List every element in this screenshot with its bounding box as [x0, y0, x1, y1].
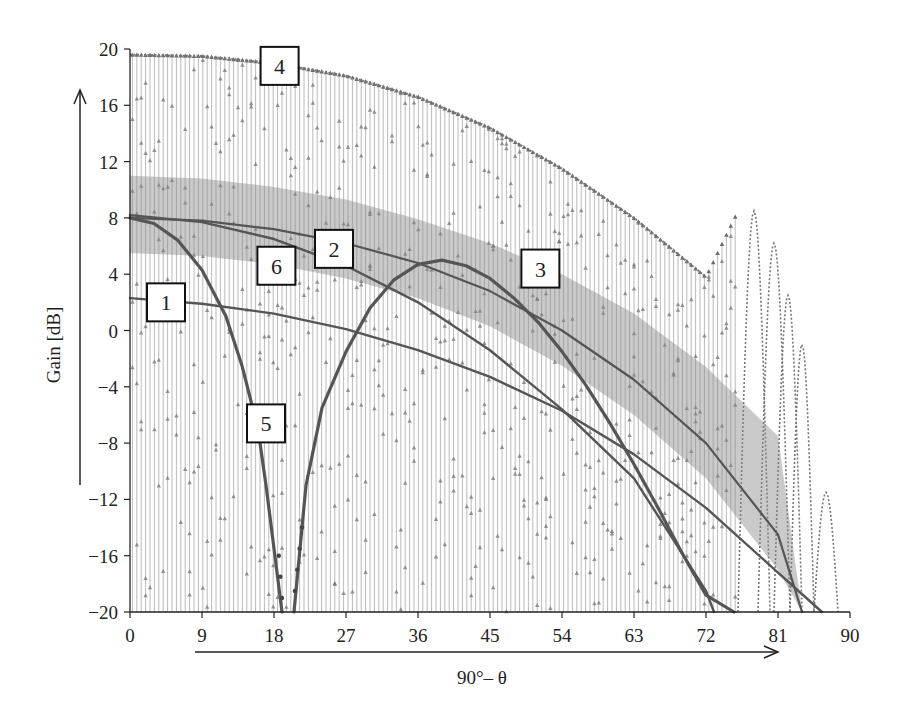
triangle-marker — [262, 126, 266, 130]
triangle-marker — [676, 308, 680, 312]
dense-band-fill — [130, 176, 802, 612]
triangle-marker — [636, 308, 640, 312]
triangle-marker — [209, 495, 213, 499]
triangle-marker — [619, 477, 623, 481]
y-tick-label: −20 — [88, 602, 118, 623]
triangle-marker — [451, 211, 455, 215]
triangle-marker — [500, 220, 504, 224]
triangle-marker — [465, 124, 469, 128]
triangle-marker — [478, 324, 482, 328]
triangle-marker — [575, 571, 579, 575]
triangle-marker — [478, 545, 482, 549]
triangle-marker — [416, 124, 420, 128]
triangle-marker — [504, 142, 508, 146]
triangle-marker — [575, 394, 579, 398]
triangle-marker — [729, 224, 734, 228]
triangle-marker — [143, 151, 147, 155]
triangle-marker — [372, 512, 376, 516]
triangle-marker — [253, 76, 257, 80]
triangle-marker — [174, 432, 178, 436]
triangle-marker — [412, 446, 416, 450]
triangle-marker — [636, 588, 640, 592]
triangle-marker — [381, 393, 385, 397]
triangle-marker — [645, 599, 649, 603]
triangle-marker — [478, 205, 482, 209]
triangle-marker — [355, 473, 359, 477]
triangle-marker — [425, 141, 429, 145]
y-tick-label: 4 — [109, 264, 119, 285]
triangle-marker — [469, 593, 473, 597]
triangle-marker — [495, 534, 499, 538]
triangle-marker — [504, 243, 508, 247]
callout-label: 1 — [161, 290, 172, 315]
triangle-marker — [161, 98, 165, 102]
triangle-marker — [341, 591, 345, 595]
triangle-marker — [355, 285, 359, 289]
triangle-marker — [135, 381, 139, 385]
triangle-marker — [381, 343, 385, 347]
triangle-marker — [359, 125, 363, 129]
triangle-marker — [583, 487, 587, 491]
dot-marker — [280, 596, 284, 600]
triangle-marker — [328, 466, 332, 470]
triangle-marker — [715, 355, 719, 359]
triangle-marker — [592, 601, 596, 605]
triangle-marker — [473, 564, 477, 568]
triangle-marker — [614, 501, 618, 505]
triangle-marker — [517, 555, 521, 559]
triangle-marker — [544, 524, 548, 528]
triangle-marker — [561, 384, 565, 388]
triangle-marker — [491, 428, 495, 432]
triangle-marker — [412, 101, 416, 105]
triangle-marker — [192, 470, 196, 474]
triangle-marker — [693, 549, 697, 553]
triangle-marker — [566, 212, 570, 216]
triangle-marker — [289, 156, 293, 160]
triangle-marker — [614, 421, 618, 425]
triangle-marker — [390, 139, 394, 143]
triangle-marker — [592, 494, 596, 498]
triangle-marker — [306, 156, 310, 160]
triangle-marker — [592, 557, 596, 561]
triangle-marker — [460, 474, 464, 478]
triangle-marker — [130, 117, 134, 121]
triangle-marker — [231, 133, 235, 137]
triangle-marker — [597, 600, 601, 604]
triangle-marker — [157, 139, 161, 143]
triangle-marker — [544, 535, 548, 539]
y-axis-title: Gain [dB] — [43, 307, 64, 384]
triangle-marker — [513, 154, 517, 158]
triangle-marker — [495, 175, 499, 179]
triangle-marker — [623, 258, 627, 262]
triangle-marker — [218, 516, 222, 520]
triangle-marker — [183, 127, 187, 131]
triangle-marker — [539, 409, 543, 413]
triangle-marker — [280, 337, 284, 341]
triangle-marker — [187, 480, 191, 484]
triangle-marker — [689, 507, 693, 511]
triangle-marker — [451, 474, 455, 478]
triangle-marker — [201, 586, 205, 590]
triangle-marker — [311, 315, 315, 319]
triangle-marker — [627, 433, 631, 437]
triangle-marker — [601, 219, 605, 223]
triangle-marker — [196, 464, 200, 468]
triangle-marker — [333, 581, 337, 585]
triangle-marker — [205, 104, 209, 108]
triangle-marker — [258, 350, 262, 354]
triangle-marker — [509, 181, 513, 185]
triangle-marker — [165, 389, 169, 393]
triangle-marker — [570, 540, 574, 544]
triangle-marker — [359, 153, 363, 157]
triangle-marker — [196, 435, 200, 439]
triangle-marker — [192, 67, 196, 71]
triangle-marker — [636, 450, 640, 454]
triangle-marker — [605, 528, 609, 532]
triangle-marker — [438, 340, 442, 344]
triangle-marker — [469, 495, 473, 499]
triangle-marker — [469, 511, 473, 515]
triangle-marker — [130, 365, 134, 369]
triangle-marker — [685, 323, 689, 327]
triangle-marker — [491, 585, 495, 589]
triangle-marker — [209, 124, 213, 128]
